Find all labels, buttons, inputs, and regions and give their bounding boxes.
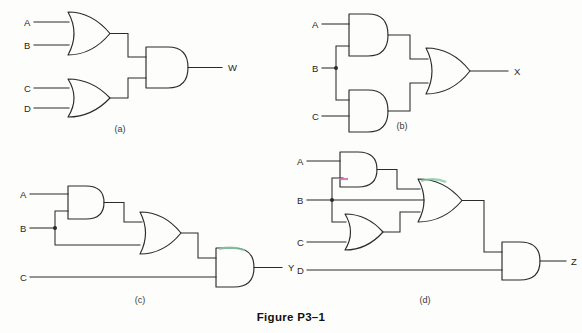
label-b-input-B: B xyxy=(312,63,319,74)
wire-d-and-to-or3 xyxy=(377,170,420,190)
figure-caption: Figure P3–1 xyxy=(257,311,326,323)
sublabel-b: (b) xyxy=(397,121,408,131)
or-gate-d1 xyxy=(345,214,383,250)
wire-d-or1-to-or3 xyxy=(383,212,420,232)
wire-d-B-down-branch xyxy=(332,200,346,222)
junction-dot-d-B xyxy=(330,198,334,202)
junction-dot-b-B xyxy=(334,66,338,70)
label-d-input-B: B xyxy=(297,195,304,206)
circuit-c: A B C Y (c) xyxy=(20,186,295,305)
label-d-input-D: D xyxy=(297,265,304,276)
and-gate-b1 xyxy=(349,14,388,56)
label-b-output-X: X xyxy=(514,66,521,77)
and-gate-a xyxy=(146,47,188,88)
wire-c-B-up-branch xyxy=(55,211,68,228)
sublabel-d: (d) xyxy=(420,295,431,305)
wire-b-and2-to-or xyxy=(388,83,428,111)
and-gate-c xyxy=(68,186,104,219)
or-gate-d2 xyxy=(418,179,462,222)
and-gate-c2 xyxy=(216,248,254,287)
wire-c-B-down-branch xyxy=(55,228,140,245)
wire-a-or1-to-and xyxy=(110,34,146,58)
label-c-input-A: A xyxy=(20,189,27,200)
and-gate-b2 xyxy=(349,90,388,132)
or-gate-b xyxy=(426,48,470,94)
label-c-input-C: C xyxy=(20,272,27,283)
circuit-b: A B C X (b) xyxy=(312,14,521,132)
and-gate-d xyxy=(340,152,377,187)
label-b-input-A: A xyxy=(312,19,319,30)
wire-d-B-up-branch xyxy=(332,178,343,200)
logic-circuit-figure: A B C D W (a) xyxy=(0,0,582,333)
circuit-d: A B C D Z (d) xyxy=(297,152,577,305)
wire-b-B-down-branch xyxy=(336,68,349,100)
wire-a-or2-to-and xyxy=(110,78,146,98)
circuit-a: A B C D W (a) xyxy=(24,12,237,134)
wire-b-B-up-branch xyxy=(336,46,349,68)
wire-b-and1-to-or xyxy=(388,35,428,59)
label-c-input-B: B xyxy=(20,223,27,234)
label-d-input-C: C xyxy=(297,237,304,248)
label-a-output-W: W xyxy=(228,62,237,73)
figure-page: A B C D W (a) xyxy=(0,0,582,333)
label-a-input-A: A xyxy=(24,17,31,28)
label-d-output-Z: Z xyxy=(571,256,577,267)
or-gate-a2 xyxy=(68,79,110,117)
or-gate-a1 xyxy=(68,12,110,55)
junction-dot-c-B xyxy=(53,226,57,230)
label-d-input-A: A xyxy=(297,156,304,167)
label-a-input-D: D xyxy=(24,103,31,114)
wire-c-and-to-or xyxy=(104,203,142,223)
wire-c-or-to-and2 xyxy=(181,233,216,258)
or-gate-c xyxy=(140,212,181,254)
sublabel-a: (a) xyxy=(115,124,126,134)
label-a-input-B: B xyxy=(24,40,31,51)
sublabel-c: (c) xyxy=(135,295,146,305)
highlight-mark-c xyxy=(219,248,244,250)
label-a-input-C: C xyxy=(24,83,31,94)
wire-d-or3-to-and2 xyxy=(462,201,502,253)
and-gate-d2 xyxy=(502,242,540,280)
label-c-output-Y: Y xyxy=(288,262,295,273)
label-b-input-C: C xyxy=(312,111,319,122)
